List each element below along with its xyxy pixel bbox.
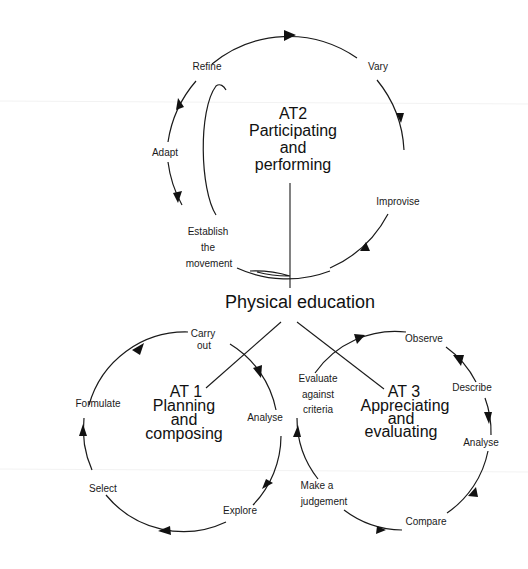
step-evaluate-line3: criteria (303, 404, 333, 415)
arc-analyse-compare (447, 451, 488, 513)
step-carry-out-line1: Carry (191, 328, 215, 339)
connector-at1 (206, 322, 281, 388)
arrow-icon (396, 113, 404, 123)
step-establish-line3: movement (186, 258, 233, 269)
step-describe: Describe (452, 382, 492, 393)
arc-adapt-refine (168, 81, 196, 142)
step-refine: Refine (193, 61, 222, 72)
arc-carryout-analyse (230, 344, 276, 410)
scan-line (0, 101, 528, 104)
arc-establish-adapt (168, 162, 182, 205)
step-evaluate-line2: against (302, 389, 334, 400)
at2-heading-4: performing (255, 156, 331, 173)
step-establish-line2: the (201, 242, 215, 253)
cycle-at1: Carry out Analyse Explore Select Formula… (75, 328, 283, 535)
step-analyse-at3: Analyse (463, 437, 499, 448)
step-compare: Compare (405, 516, 447, 527)
at2-heading-2: Participating (249, 122, 337, 139)
arc-select-formulate (83, 418, 92, 470)
arrow-icon (453, 355, 464, 366)
scan-line (0, 469, 528, 472)
arrow-icon (253, 365, 262, 378)
step-make-judgement-line1: Make a (301, 480, 334, 491)
physical-education-diagram: Refine Vary Improvise Adapt Establish th… (0, 0, 528, 569)
at3-heading-4: evaluating (365, 423, 438, 440)
step-adapt: Adapt (152, 147, 178, 158)
at1-heading-4: composing (145, 425, 222, 442)
step-observe: Observe (405, 333, 443, 344)
arrow-icon (132, 343, 144, 355)
arc-compare-judgement (344, 510, 402, 530)
arc-improvise-movement (330, 214, 388, 268)
step-improvise: Improvise (376, 196, 420, 207)
step-formulate: Formulate (75, 398, 120, 409)
arrow-icon (284, 30, 296, 41)
at2-heading-1: AT2 (279, 105, 307, 122)
feedback-arc (203, 85, 226, 215)
step-evaluate-line1: Evaluate (299, 373, 338, 384)
arc-judgement-evaluate (297, 418, 318, 479)
arrow-icon (354, 334, 365, 344)
step-select: Select (89, 483, 117, 494)
arc-explore-select (106, 495, 226, 532)
cycle-at3: Observe Describe Analyse Compare Make a … (293, 331, 499, 534)
step-explore: Explore (223, 505, 257, 516)
step-establish-line1: Establish (188, 226, 229, 237)
arrow-icon (262, 479, 273, 489)
step-carry-out-line2: out (197, 340, 211, 351)
arc-movement-bottom (237, 268, 330, 279)
at2-heading-3: and (280, 139, 307, 156)
step-analyse: Analyse (247, 412, 283, 423)
step-make-judgement-line2: judgement (300, 496, 348, 507)
arrow-icon (79, 424, 87, 436)
cycle-at2: Refine Vary Improvise Adapt Establish th… (152, 30, 420, 279)
arrow-icon (158, 526, 171, 535)
arrow-icon (360, 242, 370, 251)
diagram-title: Physical education (225, 292, 375, 312)
step-vary: Vary (368, 61, 388, 72)
